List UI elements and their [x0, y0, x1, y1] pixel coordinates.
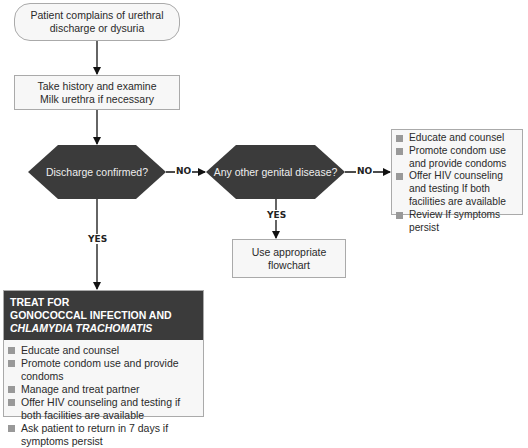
treatment-title-1: TREAT FOR — [10, 296, 197, 309]
edge-label-yes-2: YES — [266, 210, 287, 220]
start-text-2: discharge or dysuria — [30, 22, 163, 35]
decision1-label: Discharge confirmed? — [46, 166, 148, 178]
step2-text-2: Milk urethra if necessary — [37, 93, 156, 106]
decision2-label: Any other genital disease? — [214, 166, 338, 178]
edge-label-no-2: NO — [356, 166, 373, 176]
decision-other-genital-disease: Any other genital disease? — [206, 145, 345, 199]
no-other-disease-actions: Educate and counsel Promote condom use a… — [391, 129, 523, 215]
decision-discharge-confirmed: Discharge confirmed? — [28, 145, 166, 199]
list-item: Ask patient to return in 7 days if sympt… — [4, 422, 203, 448]
history-exam-step: Take history and examineMilk urethra if … — [14, 75, 180, 110]
edge-label-yes-1: YES — [87, 234, 108, 244]
edge-label-no-1: NO — [175, 166, 192, 176]
start-text-1: Patient complains of urethral — [30, 9, 163, 22]
treatment-title-2: GONOCOCCAL INFECTION AND — [10, 309, 197, 322]
list-item: Offer HIV counseling and testing if both… — [4, 396, 203, 422]
start-node: Patient complains of urethraldischarge o… — [14, 3, 180, 41]
list-item: Review If symptoms persist — [392, 209, 522, 235]
flowchart-box-label: Use appropriate flowchart — [233, 246, 345, 272]
step2-text-1: Take history and examine — [37, 80, 156, 93]
treatment-header: TREAT FOR GONOCOCCAL INFECTION AND CHLAM… — [4, 291, 203, 340]
treatment-box: TREAT FOR GONOCOCCAL INFECTION AND CHLAM… — [3, 290, 204, 417]
list-item: Offer HIV counseling and testing If both… — [392, 170, 522, 208]
list-item: Manage and treat partner — [4, 383, 203, 396]
list-item: Educate and counsel — [392, 132, 522, 145]
list-item: Educate and counsel — [4, 344, 203, 357]
list-item: Promote condom use and provide condoms — [4, 357, 203, 383]
use-appropriate-flowchart-box: Use appropriate flowchart — [232, 239, 346, 278]
treatment-title-3: CHLAMYDIA TRACHOMATIS — [10, 322, 197, 335]
list-item: Promote condom use and provide condoms — [392, 145, 522, 171]
